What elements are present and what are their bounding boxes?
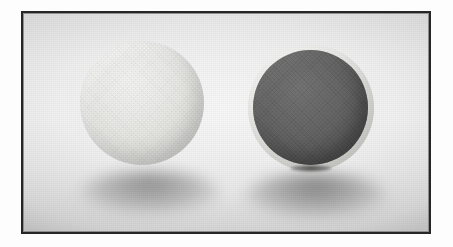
sphere-light-rim [78, 39, 206, 167]
photo-frame [21, 11, 431, 234]
shadow-left [81, 171, 219, 213]
sphere-dark-texture [253, 50, 368, 165]
photograph-root [0, 0, 453, 247]
sphere-dark-contact-mark [290, 165, 332, 172]
sphere-dark-coating [253, 50, 368, 165]
sphere-light [80, 41, 204, 165]
shadow-right [245, 173, 385, 217]
sphere-dark [246, 41, 376, 173]
